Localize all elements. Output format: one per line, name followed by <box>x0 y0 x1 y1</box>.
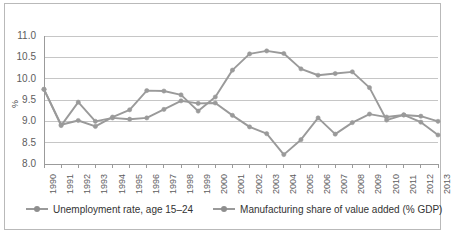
data-point <box>76 118 80 122</box>
x-axis-tick-label: 1990 <box>48 174 58 194</box>
y-axis-tick-label: 9.0 <box>2 115 36 126</box>
data-point <box>247 125 251 129</box>
x-axis-tick-label: 2007 <box>339 174 349 194</box>
data-point <box>367 112 371 116</box>
legend-marker-icon <box>26 204 48 214</box>
data-point <box>350 121 354 125</box>
x-axis-tick-label: 1994 <box>117 174 127 194</box>
data-point <box>42 87 46 91</box>
gridlines <box>44 36 438 164</box>
data-point <box>436 133 440 137</box>
data-point <box>367 86 371 90</box>
x-axis-tick-label: 2012 <box>425 174 435 194</box>
data-point <box>213 95 217 99</box>
x-axis-tick-label: 1993 <box>99 174 109 194</box>
x-axis-tick-label: 1991 <box>65 174 75 194</box>
legend-marker-icon <box>213 204 235 214</box>
x-axis-tick-marks <box>44 164 438 168</box>
data-point <box>282 51 286 55</box>
data-point <box>59 123 63 127</box>
data-point <box>179 99 183 103</box>
data-point <box>196 109 200 113</box>
data-series-layer <box>42 49 440 157</box>
data-point <box>76 100 80 104</box>
x-axis-tick-label: 2004 <box>288 174 298 194</box>
x-axis-tick-label: 2013 <box>442 174 452 194</box>
series-line-1 <box>44 51 438 135</box>
data-point <box>128 117 132 121</box>
data-point <box>299 67 303 71</box>
data-point <box>265 132 269 136</box>
legend-entry-unemployment[interactable]: Unemployment rate, age 15–24 <box>26 204 193 215</box>
y-axis-title: % <box>10 100 20 108</box>
legend-entry-manufacturing[interactable]: Manufacturing share of value added (% GD… <box>213 204 442 215</box>
data-point <box>247 52 251 56</box>
data-point <box>145 89 149 93</box>
y-axis-tick-label: 11.0 <box>2 30 36 41</box>
data-point <box>213 101 217 105</box>
x-axis-tick-label: 2011 <box>408 175 418 194</box>
data-point <box>162 89 166 93</box>
data-point <box>436 119 440 123</box>
data-point <box>316 73 320 77</box>
data-point <box>110 115 114 119</box>
data-point <box>128 108 132 112</box>
data-point <box>93 119 97 123</box>
data-point <box>333 132 337 136</box>
data-point <box>333 71 337 75</box>
y-axis-tick-label: 10.5 <box>2 51 36 62</box>
legend-label: Unemployment rate, age 15–24 <box>53 204 193 215</box>
x-axis-tick-label: 2010 <box>391 174 401 194</box>
y-axis-tick-label: 8.5 <box>2 137 36 148</box>
y-axis-tick-label: 10.0 <box>2 73 36 84</box>
data-point <box>385 118 389 122</box>
data-point <box>299 138 303 142</box>
data-point <box>179 93 183 97</box>
x-axis-tick-label: 1995 <box>134 174 144 194</box>
x-axis-tick-label: 1999 <box>202 174 212 194</box>
x-axis-tick-label: 2000 <box>219 174 229 194</box>
x-axis-tick-label: 2008 <box>356 174 366 194</box>
x-axis-tick-label: 2005 <box>305 174 315 194</box>
data-point <box>316 116 320 120</box>
data-point <box>230 113 234 117</box>
x-axis-tick-label: 1997 <box>168 174 178 194</box>
data-point <box>265 49 269 53</box>
legend-label: Manufacturing share of value added (% GD… <box>240 204 442 215</box>
data-point <box>402 113 406 117</box>
x-axis-tick-label: 1992 <box>82 174 92 194</box>
data-point <box>162 107 166 111</box>
data-point <box>145 116 149 120</box>
data-point <box>419 120 423 124</box>
x-axis-tick-label: 1996 <box>151 174 161 194</box>
x-axis-tick-label: 2006 <box>322 174 332 194</box>
x-axis-tick-label: 2003 <box>271 174 281 194</box>
data-point <box>282 153 286 157</box>
data-point <box>419 114 423 118</box>
data-point <box>196 101 200 105</box>
data-point <box>350 70 354 74</box>
x-axis-tick-label: 2002 <box>254 174 264 194</box>
data-point <box>230 68 234 72</box>
chart-legend: Unemployment rate, age 15–24 Manufacturi… <box>26 201 426 217</box>
x-axis-tick-label: 2009 <box>373 174 383 194</box>
y-axis-tick-label: 8.0 <box>2 158 36 169</box>
x-axis-tick-label: 1998 <box>185 174 195 194</box>
x-axis-tick-label: 2001 <box>236 174 246 194</box>
data-point <box>93 124 97 128</box>
